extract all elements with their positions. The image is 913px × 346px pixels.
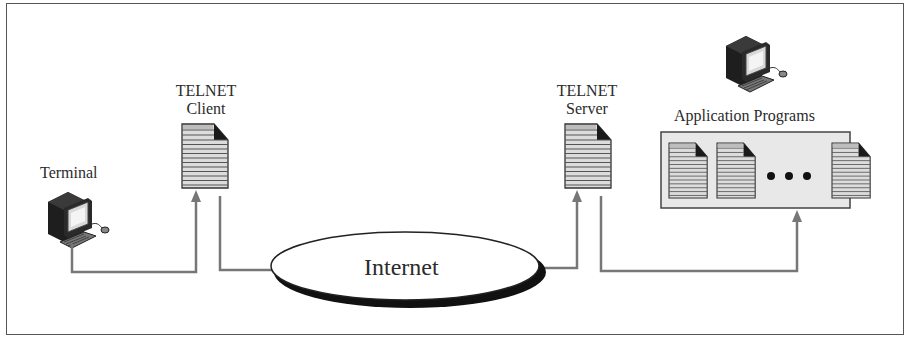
app-document-icon-3 <box>832 143 870 198</box>
application-computer-icon <box>726 36 787 92</box>
arrow-up-icon <box>792 210 802 222</box>
arrow-up-icon <box>191 190 201 202</box>
telnet-client-label: TELNET Client <box>165 82 247 118</box>
telnet-server-label-line1: TELNET <box>546 82 628 100</box>
terminal-computer-icon <box>48 192 109 248</box>
telnet-client-label-line1: TELNET <box>165 82 247 100</box>
ellipsis-dots-icon <box>767 172 811 180</box>
arrow-up-icon <box>572 190 582 202</box>
telnet-client-label-line2: Client <box>165 100 247 118</box>
client-to-internet-connector <box>220 196 272 270</box>
telnet-server-label-line2: Server <box>546 100 628 118</box>
internet-label: Internet <box>364 254 439 281</box>
telnet-server-document-icon <box>565 124 611 188</box>
telnet-server-label: TELNET Server <box>546 82 628 118</box>
application-programs-label: Application Programs <box>674 107 815 125</box>
terminal-label: Terminal <box>40 164 98 182</box>
diagram-canvas <box>0 0 913 346</box>
app-document-icon-1 <box>669 143 707 198</box>
app-document-icon-2 <box>717 143 755 198</box>
internet-to-server-connector <box>540 200 577 268</box>
telnet-client-document-icon <box>182 124 228 188</box>
